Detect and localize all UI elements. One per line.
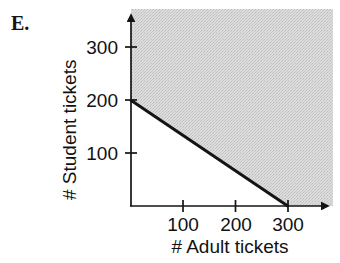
x-axis-tick-label-200: 200 bbox=[220, 215, 252, 234]
shaded-feasible-region bbox=[131, 9, 333, 206]
figure-panel: E. bbox=[0, 0, 340, 263]
y-axis-title: # Student tickets bbox=[60, 60, 79, 200]
x-axis-tick-label-100: 100 bbox=[167, 215, 199, 234]
x-axis-title: # Adult tickets bbox=[171, 237, 288, 256]
y-axis-tick-label-300: 300 bbox=[66, 38, 118, 57]
x-axis-tick-label-300: 300 bbox=[272, 215, 304, 234]
